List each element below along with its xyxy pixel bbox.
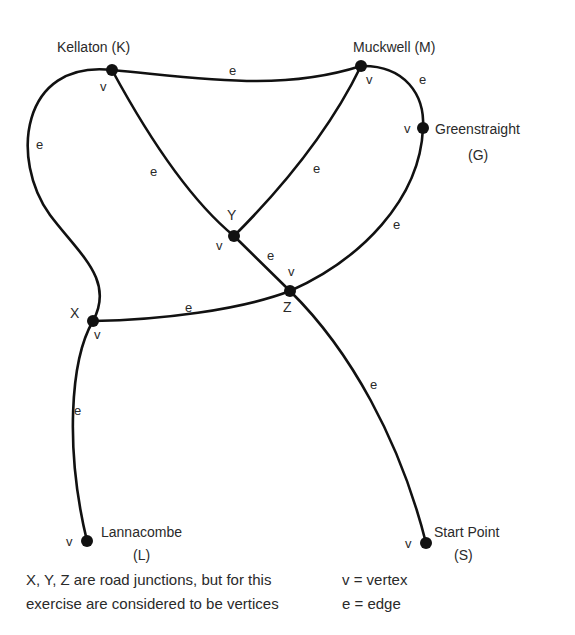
e-mark-y-z: e <box>267 249 274 262</box>
v-mark-l: v <box>66 535 73 548</box>
edge-g-z <box>290 128 423 291</box>
v-mark-g: v <box>404 122 411 135</box>
label-greenstraight: Greenstraight <box>435 122 520 136</box>
edge-k-m <box>112 66 361 81</box>
v-mark-z: v <box>288 265 295 278</box>
edge-m-y <box>234 66 361 236</box>
e-mark-x-l: e <box>74 404 81 417</box>
v-mark-s: v <box>405 537 412 550</box>
label-muckwell: Muckwell (M) <box>353 40 435 54</box>
v-mark-k: v <box>100 80 107 93</box>
e-mark-z-s: e <box>370 378 377 391</box>
v-mark-y: v <box>216 239 223 252</box>
label-start-point-code: (S) <box>454 548 473 562</box>
label-z: Z <box>283 300 292 314</box>
vertex-x <box>87 315 99 327</box>
legend-edge: e = edge <box>342 592 407 616</box>
e-mark-k-x: e <box>36 138 43 151</box>
label-lannacombe-code: (L) <box>133 548 150 562</box>
e-mark-k-y: e <box>150 165 157 178</box>
vertex-g <box>417 122 429 134</box>
legend-vertex: v = vertex <box>342 568 407 592</box>
vertex-m <box>355 60 367 72</box>
edge-x-l <box>73 321 93 541</box>
caption-note: X, Y, Z are road junctions, but for this… <box>26 568 279 616</box>
caption-legend: v = vertex e = edge <box>342 568 407 616</box>
v-mark-x: v <box>94 328 101 341</box>
edge-z-s <box>290 291 426 543</box>
v-mark-m: v <box>366 73 373 86</box>
label-lannacombe: Lannacombe <box>101 525 182 539</box>
e-mark-k-m: e <box>229 64 236 77</box>
vertex-k <box>106 64 118 76</box>
vertex-y <box>228 230 240 242</box>
vertex-l <box>81 535 93 547</box>
edge-y-z <box>234 236 290 291</box>
e-mark-m-g: e <box>419 73 426 86</box>
caption-note-line1: X, Y, Z are road junctions, but for this <box>26 568 279 592</box>
e-mark-g-z: e <box>393 218 400 231</box>
vertex-z <box>284 285 296 297</box>
label-y: Y <box>227 208 236 222</box>
e-mark-x-z: e <box>185 301 192 314</box>
e-mark-m-y: e <box>313 162 320 175</box>
caption-note-line2: exercise are considered to be vertices <box>26 592 279 616</box>
label-kellaton: Kellaton (K) <box>57 40 130 54</box>
label-x: X <box>70 306 79 320</box>
vertex-s <box>420 537 432 549</box>
label-start-point: Start Point <box>434 525 499 539</box>
edge-k-x <box>28 69 112 321</box>
edge-k-y <box>112 70 234 236</box>
label-greenstraight-code: (G) <box>468 148 488 162</box>
